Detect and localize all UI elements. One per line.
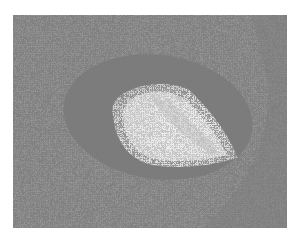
histology-micrograph — [13, 15, 287, 228]
